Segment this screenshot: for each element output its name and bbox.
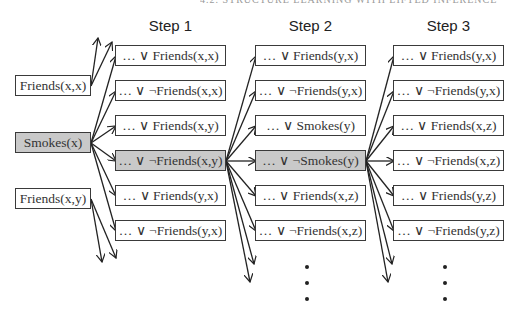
step3-clause: … ∨ ¬Friends(y,x): [393, 80, 504, 101]
clause-search-diagram: 4.2. STRUCTURE LEARNING WITH LIFTED INFE…: [0, 0, 520, 314]
step1-clause: … ∨ Friends(x,x): [115, 45, 226, 66]
step1-clause: … ∨ Friends(x,y): [115, 115, 226, 136]
step2-clause: … ∨ ¬Friends(y,x): [255, 80, 366, 101]
step3-clause: … ∨ ¬Friends(x,z): [393, 150, 504, 171]
continuation-dots-step3: [443, 265, 449, 313]
step3-clause: … ∨ Friends(x,z): [393, 115, 504, 136]
step2-clause-selected: … ∨ ¬Smokes(y): [255, 150, 366, 171]
step1-clause: … ∨ Friends(y,x): [115, 185, 226, 206]
step1-clause-selected: … ∨ ¬Friends(x,y): [115, 150, 226, 171]
step1-clause: … ∨ ¬Friends(x,x): [115, 80, 226, 101]
step2-clause: … ∨ Friends(y,x): [255, 45, 366, 66]
step2-clause: … ∨ ¬Friends(x,z): [255, 220, 366, 241]
step3-clause: … ∨ Friends(y,z): [393, 185, 504, 206]
step1-clause: … ∨ ¬Friends(y,x): [115, 220, 226, 241]
initial-literal-smokes-x: Smokes(x): [15, 132, 91, 153]
continuation-dots-step2: [305, 265, 311, 313]
step2-clause: … ∨ Smokes(y): [255, 115, 366, 136]
step3-clause: … ∨ Friends(y,x): [393, 45, 504, 66]
step2-clause: … ∨ Friends(x,z): [255, 185, 366, 206]
step3-clause: … ∨ ¬Friends(y,z): [393, 220, 504, 241]
initial-literal-friends-xx: Friends(x,x): [15, 75, 91, 96]
initial-literal-friends-xy: Friends(x,y): [15, 188, 91, 209]
